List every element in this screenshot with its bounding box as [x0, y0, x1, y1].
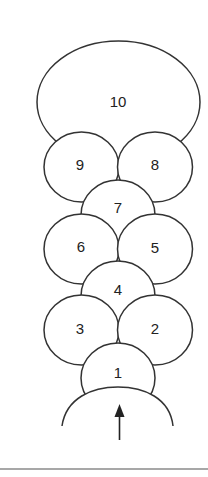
node-6-label: 6 [77, 238, 85, 255]
node-2-label: 2 [151, 320, 159, 337]
node-8-label: 8 [151, 156, 159, 173]
node-3-label: 3 [76, 320, 84, 337]
node-4-label: 4 [114, 281, 122, 298]
node-9-label: 9 [76, 156, 84, 173]
node-1-label: 1 [114, 364, 122, 381]
circle-sequence-diagram: 10 9 8 7 6 5 4 3 2 1 [0, 0, 208, 477]
node-7-label: 7 [114, 199, 122, 216]
node-5-label: 5 [151, 239, 159, 256]
node-10-label: 10 [110, 93, 127, 110]
